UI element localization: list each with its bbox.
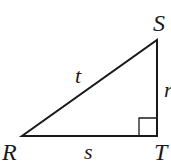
triangle-rst (22, 40, 157, 136)
vertex-label-t: T (154, 139, 169, 164)
right-angle-marker (139, 118, 157, 136)
vertex-label-r: R (1, 139, 17, 164)
vertex-label-s: S (153, 10, 165, 36)
triangle-diagram: S R T t s r (0, 0, 171, 164)
side-label-t: t (75, 63, 82, 88)
side-label-s: s (84, 139, 93, 164)
side-label-r: r (164, 77, 171, 102)
